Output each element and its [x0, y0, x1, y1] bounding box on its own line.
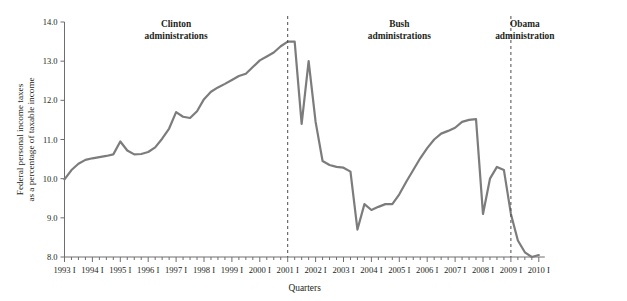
era-label-line2: administrations: [368, 31, 431, 41]
line-chart: 14.013.012.011.010.09.08.01993 I1994 I19…: [0, 0, 627, 301]
x-axis-tick-label: 1995 I: [109, 265, 131, 275]
x-axis-tick-label: 1996 I: [137, 265, 159, 275]
y-axis-tick-label: 8.0: [47, 252, 58, 262]
data-series-line: [65, 42, 539, 257]
x-axis-tick-label: 2007 I: [444, 265, 466, 275]
x-axis-tick-label: 2004 I: [360, 265, 382, 275]
x-axis-tick-label: 1993 I: [53, 265, 75, 275]
era-label-line1: Bush: [389, 19, 410, 29]
y-axis-tick-label: 14.0: [43, 17, 58, 27]
x-axis-tick-label: 2006 I: [416, 265, 438, 275]
x-axis-title: Quarters: [289, 283, 322, 293]
chart-axes: [65, 22, 545, 257]
y-axis-tick-label: 13.0: [43, 56, 58, 66]
x-axis-tick-label: 2005 I: [388, 265, 410, 275]
x-axis-tick-label: 2003 I: [332, 265, 354, 275]
x-axis-tick-label: 1998 I: [193, 265, 215, 275]
y-axis-title-line1: Federal personal income taxes: [15, 83, 25, 195]
x-axis-tick-label: 1999 I: [221, 265, 243, 275]
y-axis-tick-label: 10.0: [43, 174, 58, 184]
x-axis-tick-label: 2001 I: [277, 265, 299, 275]
x-axis-tick-label: 2008 I: [472, 265, 494, 275]
x-axis-tick-label: 2009 I: [500, 265, 522, 275]
y-axis-tick-label: 11.0: [43, 135, 58, 145]
x-axis-tick-label: 1997 I: [165, 265, 187, 275]
x-axis-tick-label: 1994 I: [81, 265, 103, 275]
era-label-line2: administration: [495, 31, 555, 41]
y-axis-tick-label: 9.0: [47, 213, 58, 223]
y-axis-tick-label: 12.0: [43, 95, 58, 105]
era-label-line2: administrations: [145, 31, 208, 41]
x-axis-tick-label: 2000 I: [249, 265, 271, 275]
chart-container: 14.013.012.011.010.09.08.01993 I1994 I19…: [0, 0, 627, 301]
x-axis-tick-label: 2010 I: [528, 265, 550, 275]
x-axis-tick-label: 2002 I: [304, 265, 326, 275]
era-label-line1: Clinton: [161, 19, 192, 29]
y-axis-title-line2: as a percentage of taxable income: [26, 77, 36, 201]
era-label-line1: Obama: [510, 19, 540, 29]
